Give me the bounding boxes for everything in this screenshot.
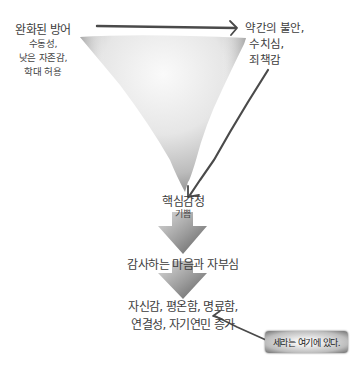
label-inhibitory-emotions: 약간의 불안, 수치심, 죄책감 — [245, 20, 304, 68]
horizontal-arrow-icon — [97, 21, 237, 35]
line-guilt: 죄책감 — [245, 52, 304, 68]
line-shame: 수치심, — [245, 36, 304, 52]
outcome-line-1: 자신감, 평온함, 명료함, — [100, 298, 266, 316]
detail-low-self-esteem: 낮은 자존감, — [10, 51, 76, 65]
callout-sera-is-here: 세라는 여기에 있다. — [265, 331, 348, 353]
label-core-emotion-detail: 기쁨 — [163, 207, 203, 221]
label-relaxed-defense-details: 수동성, 낮은 자존감, 학대 허용 — [10, 37, 76, 79]
detail-abuse-tolerance: 학대 허용 — [10, 65, 76, 79]
label-gratitude-pride: 감사하는 마음과 자부심 — [113, 255, 253, 272]
label-outcomes: 자신감, 평온함, 명료함, 연결성, 자기연민 증가 — [100, 298, 266, 334]
label-relaxed-defense: 완화된 방어 — [12, 20, 74, 37]
outcome-line-2: 연결성, 자기연민 증가 — [100, 316, 266, 334]
line-mild-anxiety: 약간의 불안, — [245, 20, 304, 36]
funnel-triangle — [80, 35, 246, 192]
detail-passivity: 수동성, — [10, 37, 76, 51]
